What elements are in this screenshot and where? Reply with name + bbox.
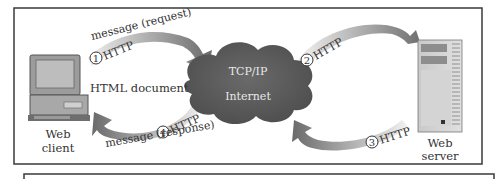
step-3-number: 3 — [369, 137, 375, 148]
client-label-line2: client — [42, 141, 75, 155]
next-frame-edge — [24, 174, 494, 179]
step-1-number: 1 — [93, 53, 99, 64]
web-server-icon — [418, 40, 462, 132]
http-diagram: 1 HTTP message (request) 2 HTTP 3 HTTP 4… — [0, 0, 499, 179]
client-label-line1: Web — [45, 127, 70, 141]
server-label-line2: server — [421, 149, 459, 163]
cloud-label-tcpip: TCP/IP — [229, 65, 268, 78]
step-2-number: 2 — [304, 55, 310, 66]
cloud-label-internet: Internet — [225, 90, 271, 103]
html-document-label: HTML document — [90, 81, 189, 95]
server-label-line1: Web — [427, 136, 452, 150]
